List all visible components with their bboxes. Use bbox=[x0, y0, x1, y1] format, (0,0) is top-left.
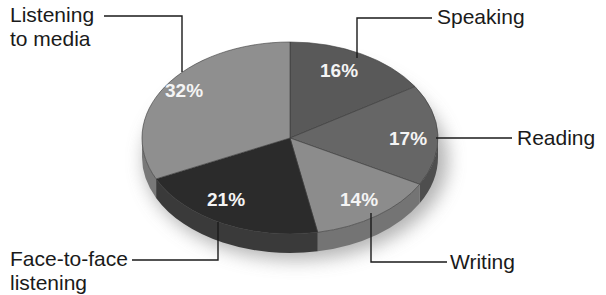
label-face-line1: Face-to-face bbox=[10, 247, 128, 271]
label-media-line2: to media bbox=[10, 27, 94, 51]
pct-face: 21% bbox=[207, 189, 245, 211]
label-writing: Writing bbox=[450, 250, 515, 274]
pct-speaking: 16% bbox=[320, 60, 358, 82]
pct-media: 32% bbox=[165, 80, 203, 102]
pct-reading: 17% bbox=[389, 128, 427, 150]
label-face-line2: listening bbox=[10, 271, 128, 295]
label-face-to-face: Face-to-face listening bbox=[10, 247, 128, 295]
leader-media bbox=[104, 16, 182, 72]
label-speaking: Speaking bbox=[437, 5, 525, 29]
label-listening-media: Listening to media bbox=[10, 3, 94, 51]
label-reading: Reading bbox=[517, 126, 595, 150]
leader-speaking bbox=[357, 18, 432, 58]
label-media-line1: Listening bbox=[10, 3, 94, 27]
pct-writing: 14% bbox=[340, 189, 378, 211]
